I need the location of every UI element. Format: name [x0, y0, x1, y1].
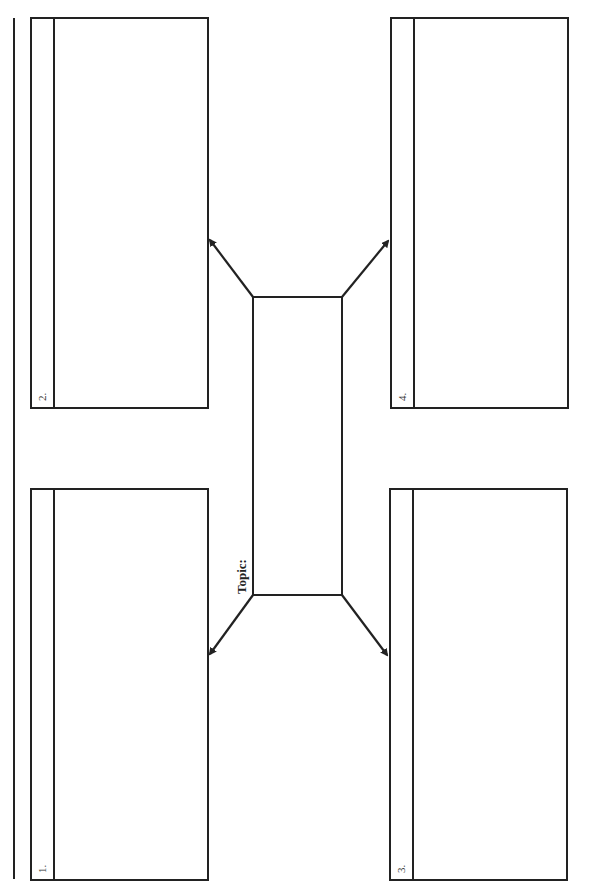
arrow-to-box-2-icon — [210, 240, 253, 297]
graphic-organizer-page: 2. 1. 4. 3. Topic: — [0, 0, 590, 896]
arrow-to-box-1-icon — [210, 595, 253, 654]
arrow-to-box-4-icon — [342, 241, 388, 297]
arrow-to-box-3-icon — [342, 595, 387, 655]
arrows-layer — [0, 0, 590, 896]
